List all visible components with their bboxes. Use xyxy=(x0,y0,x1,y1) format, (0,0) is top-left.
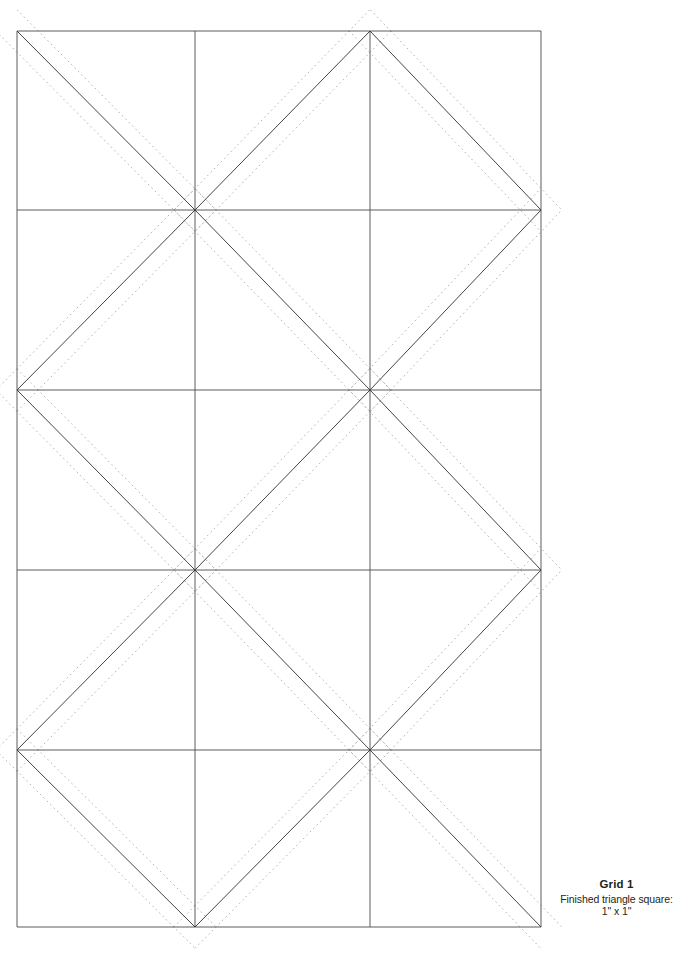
quilt-pattern-figure xyxy=(0,0,677,961)
caption-title: Grid 1 xyxy=(556,878,677,892)
caption: Grid 1 Finished triangle square: 1" x 1" xyxy=(556,878,677,917)
caption-line-2: 1" x 1" xyxy=(556,905,677,917)
pattern-canvas xyxy=(0,0,677,961)
page-background xyxy=(0,0,677,961)
caption-line-1: Finished triangle square: xyxy=(556,893,677,905)
